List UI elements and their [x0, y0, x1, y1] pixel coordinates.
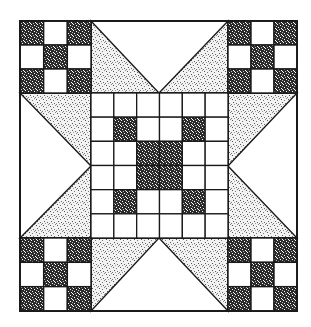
- grid-cell-light: [114, 166, 137, 190]
- grid-cell-light: [160, 214, 183, 238]
- patch-square-light: [228, 45, 251, 69]
- grid-cell-dark: [114, 117, 137, 141]
- patch-square-light: [251, 69, 274, 93]
- grid-cell-light: [91, 93, 114, 117]
- grid-cell-light: [182, 93, 205, 117]
- grid-cell-light: [91, 214, 114, 238]
- grid-cell-dark: [160, 141, 183, 165]
- patch-square-dark: [251, 262, 274, 286]
- grid-cell-light: [91, 166, 114, 190]
- patch-square-dark: [20, 69, 44, 93]
- grid-cell-light: [160, 93, 183, 117]
- patch-square-dark: [274, 287, 297, 311]
- grid-cell-light: [160, 117, 183, 141]
- grid-cell-light: [205, 214, 228, 238]
- grid-cell-light: [91, 190, 114, 214]
- grid-cell-dark: [137, 166, 160, 190]
- grid-cell-light: [182, 166, 205, 190]
- patch-square-dark: [67, 287, 91, 311]
- grid-cell-light: [205, 166, 228, 190]
- patch-square-light: [251, 21, 274, 45]
- grid-cell-light: [182, 214, 205, 238]
- patch-square-dark: [20, 287, 44, 311]
- patch-square-light: [20, 45, 44, 69]
- grid-cell-light: [114, 214, 137, 238]
- grid-cell-dark: [137, 141, 160, 165]
- nine-patch-bottom-left: [20, 238, 91, 311]
- patch-square-light: [44, 238, 68, 262]
- grid-cell-dark: [160, 166, 183, 190]
- patch-square-dark: [20, 21, 44, 45]
- patch-square-light: [44, 287, 68, 311]
- grid-cell-light: [205, 117, 228, 141]
- nine-patch-top-left: [20, 21, 91, 93]
- patch-square-light: [67, 45, 91, 69]
- grid-cell-light: [114, 93, 137, 117]
- patch-square-light: [251, 287, 274, 311]
- grid-cell-light: [91, 141, 114, 165]
- grid-cell-light: [160, 190, 183, 214]
- grid-cell-dark: [114, 190, 137, 214]
- patch-square-light: [20, 262, 44, 286]
- patch-square-dark: [274, 238, 297, 262]
- patch-square-dark: [228, 69, 251, 93]
- grid-cell-light: [114, 141, 137, 165]
- grid-cell-light: [137, 214, 160, 238]
- patch-square-light: [67, 262, 91, 286]
- nine-patch-top-right: [228, 21, 297, 93]
- grid-cell-light: [205, 93, 228, 117]
- patch-square-dark: [274, 21, 297, 45]
- grid-cell-light: [137, 93, 160, 117]
- grid-cell-light: [205, 190, 228, 214]
- patch-square-light: [44, 21, 68, 45]
- patch-square-light: [274, 45, 297, 69]
- patch-square-dark: [228, 21, 251, 45]
- patch-square-dark: [251, 45, 274, 69]
- grid-cell-light: [137, 117, 160, 141]
- grid-cell-dark: [182, 117, 205, 141]
- patch-square-light: [44, 69, 68, 93]
- grid-cell-light: [137, 190, 160, 214]
- patch-square-dark: [44, 262, 68, 286]
- patch-square-dark: [20, 238, 44, 262]
- nine-patch-bottom-right: [228, 238, 297, 311]
- patch-square-light: [228, 262, 251, 286]
- patch-square-dark: [228, 287, 251, 311]
- patch-square-dark: [67, 238, 91, 262]
- grid-cell-light: [91, 117, 114, 141]
- patch-square-dark: [44, 45, 68, 69]
- patch-square-dark: [274, 69, 297, 93]
- patch-square-dark: [67, 69, 91, 93]
- grid-cell-dark: [182, 190, 205, 214]
- patch-square-dark: [228, 238, 251, 262]
- patch-square-light: [251, 238, 274, 262]
- grid-cell-light: [205, 141, 228, 165]
- grid-cell-light: [182, 141, 205, 165]
- patch-square-dark: [67, 21, 91, 45]
- patch-square-light: [274, 262, 297, 286]
- center-grid: [91, 93, 228, 238]
- quilt-block-figure: [0, 0, 311, 327]
